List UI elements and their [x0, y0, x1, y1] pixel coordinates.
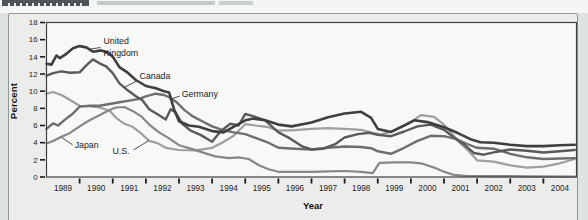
exhibit-tag-cropped-text [8, 3, 83, 7]
exhibit-caption-cropped-text-2 [219, 1, 253, 5]
exhibit-caption-cropped-text [97, 1, 215, 5]
page-background: Percent Year 024681012141618198919901991… [0, 0, 588, 220]
x-axis-title: Year [233, 200, 393, 211]
exhibit-tag [2, 0, 89, 6]
y-axis-title: Percent [8, 21, 20, 181]
chart-panel: Percent Year [8, 13, 578, 220]
page-top-margin [0, 0, 588, 13]
